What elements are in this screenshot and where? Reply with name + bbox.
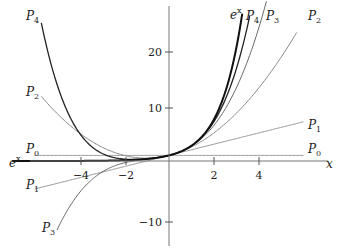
y-tick-label-10: 10 (148, 102, 162, 115)
label-p3-right: P3 (265, 9, 279, 25)
label-p2-right: P2 (307, 9, 321, 25)
taylor-polynomial-chart: −4 −2 2 4 20 10 −10 x P4 P2 P0 ex P1 P3 … (0, 0, 338, 248)
label-ex-top: ex (230, 6, 242, 22)
curves-group (12, 1, 303, 230)
x-tick-label-neg2: −2 (118, 169, 134, 182)
y-tick-label-neg10: −10 (139, 216, 162, 229)
label-p4-right: P4 (245, 9, 259, 25)
label-p0-right: P0 (307, 142, 321, 158)
label-p1-left: P1 (25, 178, 39, 194)
x-tick-label-4: 4 (256, 169, 263, 182)
label-p0-left: P0 (25, 142, 39, 158)
curve-p4 (41, 16, 249, 159)
label-p1-right: P1 (307, 118, 321, 134)
label-p2-left: P2 (25, 85, 39, 101)
curve-p3 (57, 1, 266, 230)
x-tick-label-neg4: −4 (73, 169, 89, 182)
label-p3-left: P3 (41, 221, 55, 237)
label-ex-left: ex (9, 154, 21, 170)
y-tick-label-20: 20 (148, 46, 162, 59)
x-axis-label: x (326, 157, 333, 171)
x-tick-label-2: 2 (211, 169, 218, 182)
curve-ex (12, 14, 242, 161)
label-p4-left: P4 (25, 9, 39, 25)
